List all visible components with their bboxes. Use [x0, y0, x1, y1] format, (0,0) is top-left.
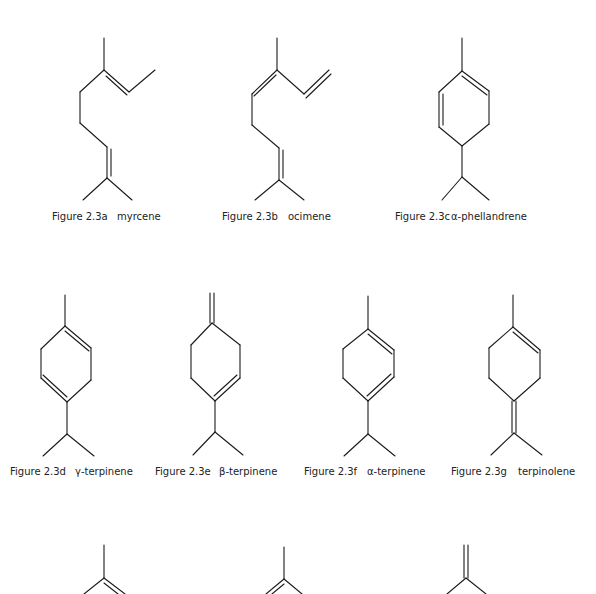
compound-name: ocimene: [288, 211, 331, 222]
structure-gamma-terpinene: [41, 295, 94, 456]
compound-name: α-phellandrene: [451, 211, 527, 222]
structure-partial-3: [447, 545, 486, 594]
figure-number: Figure 2.3c: [395, 211, 450, 222]
figure-number: Figure 2.3b: [222, 211, 278, 222]
structure-myrcene: [80, 38, 155, 200]
figure-number: Figure 2.3g: [451, 466, 507, 477]
figure-number: Figure 2.3d: [10, 466, 66, 477]
compound-name: terpinolene: [518, 466, 575, 477]
structure-alpha-terpinene: [343, 296, 395, 456]
compound-name: myrcene: [117, 211, 161, 222]
compound-name: α-terpinene: [367, 466, 426, 477]
structure-beta-terpinene: [191, 293, 243, 455]
compound-name: γ-terpinene: [75, 466, 133, 477]
structure-terpinolene: [489, 295, 542, 455]
structure-ocimene: [252, 38, 331, 200]
figure-number: Figure 2.3a: [52, 211, 108, 222]
structure-partial-1: [84, 545, 125, 594]
figure-number: Figure 2.3e: [155, 466, 211, 477]
terpene-structures-page: Figure 2.3a myrcene Figure 2.3b ocimene …: [0, 0, 596, 594]
compound-name: β-terpinene: [219, 466, 277, 477]
structure-alpha-phellandrene: [439, 38, 489, 200]
structure-partial-2: [266, 547, 302, 594]
figure-number: Figure 2.3f: [304, 466, 357, 477]
